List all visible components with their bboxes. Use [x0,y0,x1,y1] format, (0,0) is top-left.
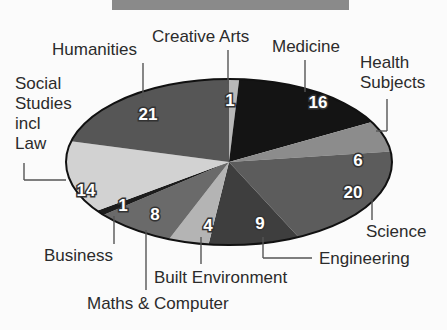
label-social-2: Studies [15,94,72,113]
value-label: 9 [255,214,264,233]
label-maths: Maths & Computer [87,294,229,313]
value-label: 4 [203,216,213,235]
label-humanities: Humanities [52,40,137,59]
label-social-4: Law [15,134,46,153]
value-label: 16 [309,93,328,112]
label-social-1: Social [15,74,61,93]
label-creative-arts: Creative Arts [152,27,249,46]
label-built-environment: Built Environment [154,268,287,287]
label-health-2: Subjects [360,73,425,92]
value-label: 6 [353,151,362,170]
label-business: Business [44,246,113,265]
value-label: 20 [344,183,363,202]
value-label: 14 [77,181,96,200]
label-medicine: Medicine [272,37,340,56]
value-label: 1 [225,91,234,110]
label-science: Science [366,222,426,241]
value-label: 21 [139,105,158,124]
value-label: 8 [150,205,159,224]
label-engineering: Engineering [319,249,410,268]
label-health-1: Health [360,53,409,72]
label-social-3: incl [15,114,41,133]
value-label: 1 [118,196,127,215]
